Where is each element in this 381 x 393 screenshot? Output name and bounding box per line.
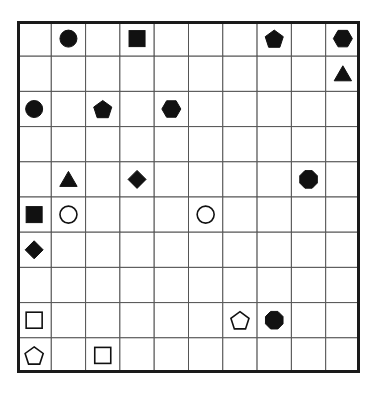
board-cell-r4-c4[interactable]: [154, 162, 188, 197]
board-cell-r9-c6[interactable]: [223, 338, 257, 373]
board-cell-r9-c8[interactable]: [291, 338, 325, 373]
board-cell-r0-c5[interactable]: [189, 21, 223, 56]
board-cell-r8-c2[interactable]: [86, 303, 120, 338]
board-cell-r8-c3[interactable]: [120, 303, 154, 338]
board-cell-r2-c1[interactable]: [51, 91, 85, 126]
board-cell-r6-c5[interactable]: [189, 232, 223, 267]
board-cell-r6-c1[interactable]: [51, 232, 85, 267]
board-cell-r5-c7[interactable]: [257, 197, 291, 232]
board-cell-r0-c6[interactable]: [223, 21, 257, 56]
filled-octagon-icon[interactable]: [265, 311, 283, 329]
board-cell-r8-c9[interactable]: [326, 303, 360, 338]
board-cell-r1-c7[interactable]: [257, 56, 291, 91]
board-cell-r5-c3[interactable]: [120, 197, 154, 232]
board-cell-r5-c5[interactable]: [189, 197, 223, 232]
board-cell-r5-c4[interactable]: [154, 197, 188, 232]
board-cell-r7-c5[interactable]: [189, 267, 223, 302]
board-cell-r6-c8[interactable]: [291, 232, 325, 267]
board-cell-r4-c7[interactable]: [257, 162, 291, 197]
board-cell-r9-c1[interactable]: [51, 338, 85, 373]
board-cell-r9-c0[interactable]: [17, 338, 51, 373]
board-cell-r5-c9[interactable]: [326, 197, 360, 232]
filled-square-icon[interactable]: [26, 207, 42, 223]
board-cell-r7-c0[interactable]: [17, 267, 51, 302]
filled-hexagon-icon[interactable]: [333, 30, 352, 46]
board-cell-r4-c5[interactable]: [189, 162, 223, 197]
board-cell-r1-c2[interactable]: [86, 56, 120, 91]
board-cell-r8-c0[interactable]: [17, 303, 51, 338]
board-cell-r5-c6[interactable]: [223, 197, 257, 232]
board-cell-r2-c7[interactable]: [257, 91, 291, 126]
board-cell-r2-c9[interactable]: [326, 91, 360, 126]
board-cell-r3-c4[interactable]: [154, 127, 188, 162]
board-cell-r2-c5[interactable]: [189, 91, 223, 126]
board-cell-r3-c8[interactable]: [291, 127, 325, 162]
board-cell-r8-c4[interactable]: [154, 303, 188, 338]
board-cell-r7-c6[interactable]: [223, 267, 257, 302]
board-cell-r7-c9[interactable]: [326, 267, 360, 302]
board-cell-r3-c3[interactable]: [120, 127, 154, 162]
board-cell-r7-c8[interactable]: [291, 267, 325, 302]
board-cell-r5-c1[interactable]: [51, 197, 85, 232]
board-cell-r9-c7[interactable]: [257, 338, 291, 373]
board-cell-r6-c6[interactable]: [223, 232, 257, 267]
board-cell-r1-c3[interactable]: [120, 56, 154, 91]
board-cell-r7-c2[interactable]: [86, 267, 120, 302]
board-cell-r7-c7[interactable]: [257, 267, 291, 302]
board-cell-r2-c3[interactable]: [120, 91, 154, 126]
board-cell-r1-c0[interactable]: [17, 56, 51, 91]
filled-octagon-icon[interactable]: [300, 171, 318, 189]
board-cell-r8-c6[interactable]: [223, 303, 257, 338]
board-cell-r8-c5[interactable]: [189, 303, 223, 338]
board-cell-r8-c1[interactable]: [51, 303, 85, 338]
board-cell-r5-c2[interactable]: [86, 197, 120, 232]
board-cell-r8-c8[interactable]: [291, 303, 325, 338]
filled-hexagon-icon[interactable]: [162, 101, 181, 117]
board-cell-r0-c2[interactable]: [86, 21, 120, 56]
board-cell-r4-c0[interactable]: [17, 162, 51, 197]
filled-square-icon[interactable]: [129, 31, 145, 47]
board-cell-r2-c8[interactable]: [291, 91, 325, 126]
filled-circle-icon[interactable]: [26, 101, 43, 118]
board-cell-r3-c5[interactable]: [189, 127, 223, 162]
board-cell-r9-c9[interactable]: [326, 338, 360, 373]
board-cell-r6-c9[interactable]: [326, 232, 360, 267]
board-cell-r6-c2[interactable]: [86, 232, 120, 267]
board-cell-r1-c1[interactable]: [51, 56, 85, 91]
board-cell-r0-c8[interactable]: [291, 21, 325, 56]
board-cell-r9-c3[interactable]: [120, 338, 154, 373]
board-cell-r9-c5[interactable]: [189, 338, 223, 373]
board-cell-r5-c8[interactable]: [291, 197, 325, 232]
filled-circle-icon[interactable]: [60, 30, 77, 47]
board-cell-r6-c4[interactable]: [154, 232, 188, 267]
board-cell-r4-c9[interactable]: [326, 162, 360, 197]
board-cell-r3-c1[interactable]: [51, 127, 85, 162]
board-cell-r1-c8[interactable]: [291, 56, 325, 91]
board-cell-r0-c0[interactable]: [17, 21, 51, 56]
board-cell-r7-c4[interactable]: [154, 267, 188, 302]
board-cell-r1-c4[interactable]: [154, 56, 188, 91]
board-cell-r3-c7[interactable]: [257, 127, 291, 162]
board-cell-r3-c2[interactable]: [86, 127, 120, 162]
board-cell-r3-c6[interactable]: [223, 127, 257, 162]
board-cell-r6-c3[interactable]: [120, 232, 154, 267]
board-cell-r7-c3[interactable]: [120, 267, 154, 302]
board-cell-r4-c2[interactable]: [86, 162, 120, 197]
board-cell-r7-c1[interactable]: [51, 267, 85, 302]
board-cell-r1-c5[interactable]: [189, 56, 223, 91]
board-cell-r3-c0[interactable]: [17, 127, 51, 162]
board-cell-r9-c2[interactable]: [86, 338, 120, 373]
board-cell-r9-c4[interactable]: [154, 338, 188, 373]
game-board: [17, 21, 360, 373]
board-grid: [17, 21, 360, 373]
board-cell-r1-c6[interactable]: [223, 56, 257, 91]
board-cell-r2-c6[interactable]: [223, 91, 257, 126]
board-cell-r3-c9[interactable]: [326, 127, 360, 162]
board-cell-r0-c4[interactable]: [154, 21, 188, 56]
board-cell-r4-c6[interactable]: [223, 162, 257, 197]
board-cell-r6-c7[interactable]: [257, 232, 291, 267]
